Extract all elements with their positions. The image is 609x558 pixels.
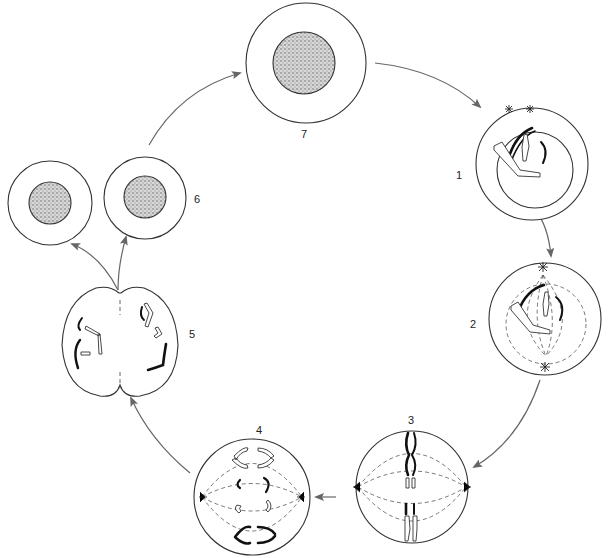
stage-3-label: 3 xyxy=(408,414,414,426)
stage-1-cell: 1 xyxy=(456,105,588,220)
stage-2-label: 2 xyxy=(470,318,476,330)
arrow-6-to-7 xyxy=(149,73,240,145)
stage-4-cell: 4 xyxy=(194,424,310,555)
stage-4-label: 4 xyxy=(256,424,262,436)
stage-1-label: 1 xyxy=(456,169,462,181)
stage-2-cell: 2 xyxy=(470,262,601,375)
arrow-4-to-5 xyxy=(131,398,190,473)
stage-7-label: 7 xyxy=(301,128,307,140)
arrow-2-to-3 xyxy=(474,380,540,467)
mitosis-diagram: 7 1 xyxy=(0,0,609,558)
arrow-5-to-6-left xyxy=(72,244,118,290)
stage-3-cell: 3 xyxy=(353,414,471,543)
stage-6-cells: 6 xyxy=(8,157,200,245)
cycle-arrows xyxy=(72,63,551,497)
stage-5-label: 5 xyxy=(189,328,195,340)
stage-5-cell: 5 xyxy=(62,287,195,396)
stage-7-cell: 7 xyxy=(246,3,366,140)
stage-6-label: 6 xyxy=(194,193,200,205)
arrow-7-to-1 xyxy=(375,63,480,107)
arrow-5-to-6-right xyxy=(118,237,126,290)
